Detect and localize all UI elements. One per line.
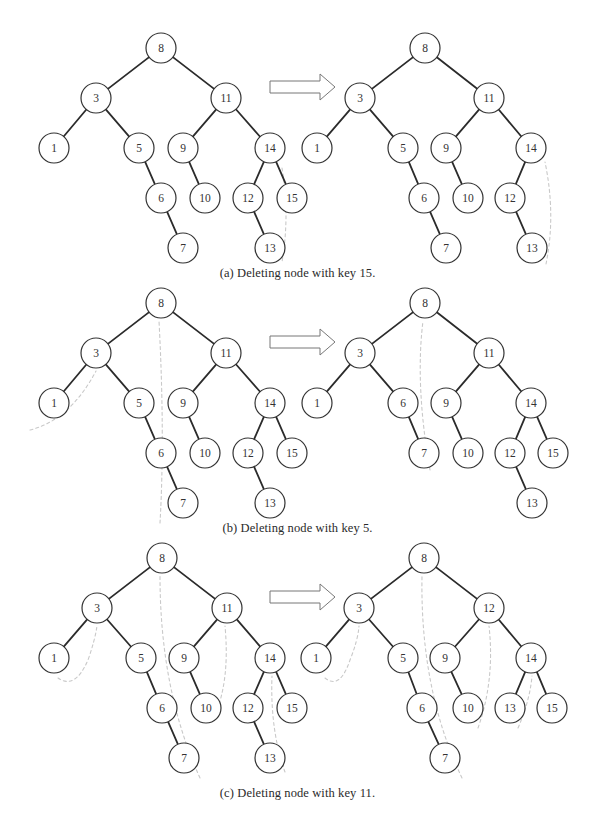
tree-node: 12 — [495, 438, 525, 468]
tree-node: 3 — [81, 338, 111, 368]
node-key-label: 3 — [357, 347, 363, 359]
node-key-label: 13 — [264, 242, 276, 254]
tree-edge — [254, 417, 264, 440]
tree-node: 9 — [168, 133, 198, 163]
node-key-label: 3 — [93, 347, 99, 359]
tree-edge — [254, 672, 264, 695]
right-arrow-icon — [270, 584, 335, 610]
tree-node: 13 — [517, 488, 547, 518]
tree-node: 8 — [146, 288, 176, 318]
tree-node: 3 — [82, 593, 112, 623]
tree-edge — [370, 364, 393, 391]
tree-node: 3 — [81, 83, 111, 113]
tree-edge — [499, 364, 522, 391]
tree-edge — [372, 57, 413, 89]
node-key-label: 7 — [442, 752, 448, 764]
node-key-label: 12 — [242, 447, 254, 459]
node-key-label: 8 — [422, 297, 428, 309]
node-key-label: 11 — [483, 347, 494, 359]
tree-edge — [327, 109, 350, 136]
tree-edge — [167, 467, 177, 490]
tree-edge — [370, 109, 393, 136]
node-key-label: 8 — [422, 42, 428, 54]
tree-node: 1 — [302, 133, 332, 163]
tree-edge — [108, 312, 149, 344]
caption-panel-a: (a) Deleting node with key 15. — [0, 266, 595, 281]
node-key-label: 6 — [158, 447, 164, 459]
tree-node: 9 — [430, 643, 460, 673]
node-key-label: 3 — [356, 602, 362, 614]
tree-node: 12 — [474, 593, 504, 623]
tree-node: 12 — [233, 693, 263, 723]
node-key-label: 9 — [443, 142, 449, 154]
node-key-label: 3 — [357, 92, 363, 104]
node-key-label: 14 — [525, 652, 537, 664]
tree-node: 11 — [474, 338, 504, 368]
tree-edge — [516, 467, 526, 490]
tree-edge — [145, 162, 155, 185]
node-key-label: 8 — [158, 297, 164, 309]
node-key-label: 9 — [180, 142, 186, 154]
tree-edge — [456, 109, 479, 136]
tree-edge — [64, 364, 87, 391]
tree-edge — [109, 567, 150, 599]
tree-edge — [173, 57, 214, 89]
node-key-label: 15 — [547, 447, 559, 459]
node-key-label: 1 — [314, 397, 320, 409]
node-key-label: 5 — [400, 142, 406, 154]
tree-edge — [428, 722, 438, 745]
node-key-label: 11 — [220, 347, 231, 359]
node-key-label: 9 — [442, 652, 448, 664]
bst-deletion-figure: 8311159146101215713831115914610127138311… — [0, 0, 595, 814]
tree-node: 5 — [124, 388, 154, 418]
node-key-label: 13 — [526, 497, 538, 509]
node-key-label: 14 — [264, 652, 276, 664]
node-key-label: 11 — [220, 92, 231, 104]
tree-node: 8 — [146, 33, 176, 63]
tree-node: 6 — [388, 388, 418, 418]
tree-edge — [193, 109, 216, 136]
tree-edge — [436, 567, 477, 599]
caption-panel-c: (c) Deleting node with key 11. — [0, 786, 595, 801]
tree-edge — [452, 162, 462, 185]
tree-node: 15 — [277, 183, 307, 213]
tree-edge — [276, 672, 286, 695]
tree-edge — [147, 672, 156, 694]
node-key-label: 9 — [180, 397, 186, 409]
tree-edge — [455, 619, 479, 646]
tree-edge — [236, 364, 260, 391]
node-key-label: 10 — [462, 447, 474, 459]
tree-node: 12 — [495, 183, 525, 213]
node-key-label: 1 — [314, 142, 320, 154]
tree-node: 1 — [301, 643, 331, 673]
node-key-label: 6 — [400, 397, 406, 409]
tree-edge — [194, 619, 217, 646]
tree-edge — [276, 417, 286, 440]
tree-node: 1 — [39, 643, 69, 673]
tree-node: 11 — [212, 593, 242, 623]
tree-edge — [371, 567, 412, 599]
tree-edge — [64, 109, 87, 136]
node-key-label: 7 — [181, 752, 187, 764]
node-key-label: 9 — [443, 397, 449, 409]
tree-after: 83111591461012713 — [302, 33, 547, 263]
tree-edge — [516, 672, 525, 694]
tree-node: 5 — [388, 133, 418, 163]
node-key-label: 5 — [400, 652, 406, 664]
tree-node: 15 — [277, 438, 307, 468]
tree-node: 10 — [453, 693, 483, 723]
node-key-label: 15 — [286, 447, 298, 459]
tree-after: 831116914710121513 — [302, 288, 568, 518]
tree-edge — [174, 567, 215, 599]
node-key-label: 10 — [200, 702, 212, 714]
tree-edge — [167, 212, 177, 235]
node-key-label: 12 — [242, 192, 254, 204]
tree-edge — [106, 364, 129, 391]
node-key-label: 15 — [546, 702, 558, 714]
tree-edge — [168, 722, 178, 745]
panel-b: 8311159146101215713831116914710121513 — [30, 288, 568, 523]
node-key-label: 5 — [138, 652, 144, 664]
node-key-label: 10 — [199, 192, 211, 204]
tree-node: 8 — [409, 543, 439, 573]
node-key-label: 10 — [462, 702, 474, 714]
